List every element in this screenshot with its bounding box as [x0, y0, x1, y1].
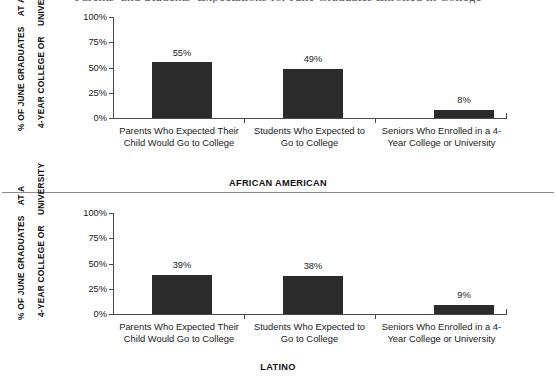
x-axis-end-tick [506, 309, 507, 314]
bar-students-expected [283, 276, 343, 314]
x-axis-end-tick [506, 113, 507, 118]
x-category-label-parents: Parents Who Expected Their Child Would G… [115, 321, 243, 344]
chart-panel-latino: % OF JUNE GRADUATES AT A 4-YEAR COLLEGE … [0, 198, 556, 378]
y-axis-line [113, 213, 114, 314]
y-tick-label-50: 50% [88, 259, 107, 269]
bar-seniors-enrolled [434, 110, 494, 118]
y-tick-label-25: 25% [88, 284, 107, 294]
x-axis-separator-1 [244, 118, 245, 123]
chart-panel-african-american: % OF JUNE GRADUATES AT A 4-YEAR COLLEGE … [0, 4, 556, 192]
bar-parents-expected [152, 275, 212, 314]
y-tick-label-75: 75% [88, 233, 107, 243]
y-axis-title-line-a: % OF JUNE GRADUATES AT A [16, 0, 26, 131]
x-category-label-parents: Parents Who Expected Their Child Would G… [115, 125, 243, 148]
bar-parents-expected [152, 62, 212, 118]
bar-value-label-students: 38% [283, 261, 343, 271]
y-axis-title-text-3: 4-YEAR COLLEGE OR [36, 36, 46, 128]
bar-value-label-parents: 39% [152, 260, 212, 270]
y-axis-title-line-b: 4-YEAR COLLEGE OR UNIVERSITY [36, 0, 46, 128]
y-axis-title-text-1: % OF JUNE GRADUATES [16, 215, 26, 320]
y-tick-label-0: 0% [94, 113, 107, 123]
y-axis-title-text-4: UNIVERSITY [36, 0, 46, 26]
figure-page: Parents’ and Students’ Expectations for … [0, 0, 556, 378]
y-axis-title-text-1: % OF JUNE GRADUATES [16, 26, 26, 131]
x-category-label-seniors: Seniors Who Enrolled in a 4-Year College… [379, 321, 504, 344]
bar-students-expected [283, 69, 343, 118]
chart-group-title-african-american: AFRICAN AMERICAN [0, 178, 556, 188]
x-axis-line [113, 118, 507, 119]
y-tick-label-25: 25% [88, 88, 107, 98]
y-tick-label-100: 100% [83, 208, 107, 218]
figure-title-cutoff: Parents’ and Students’ Expectations for … [0, 0, 556, 3]
x-axis-separator-1 [244, 314, 245, 319]
x-axis-separator-2 [375, 118, 376, 123]
y-axis-line [113, 17, 114, 118]
y-tick-label-100: 100% [83, 12, 107, 22]
y-axis-title-line-a: % OF JUNE GRADUATES AT A [16, 186, 26, 320]
chart-group-title-latino: LATINO [0, 362, 556, 372]
bar-seniors-enrolled [434, 305, 494, 314]
x-category-label-seniors: Seniors Who Enrolled in a 4-Year College… [379, 125, 504, 148]
y-axis-title-text-2: AT A [16, 0, 26, 16]
y-axis-title-text-2: AT A [16, 186, 26, 205]
bar-value-label-students: 49% [283, 54, 343, 64]
bar-value-label-seniors: 8% [434, 95, 494, 105]
x-category-label-students: Students Who Expected to Go to College [247, 125, 372, 148]
panel-divider [2, 192, 554, 193]
x-axis-line [113, 314, 507, 315]
y-axis-title-text-4: UNIVERSITY [36, 163, 46, 215]
x-category-label-students: Students Who Expected to Go to College [247, 321, 372, 344]
y-axis-title-text-3: 4-YEAR COLLEGE OR [36, 225, 46, 317]
y-tick-label-0: 0% [94, 309, 107, 319]
bar-value-label-parents: 55% [152, 48, 212, 58]
x-axis-separator-2 [375, 314, 376, 319]
y-tick-label-50: 50% [88, 63, 107, 73]
y-axis-title-line-b: 4-YEAR COLLEGE OR UNIVERSITY [36, 163, 46, 317]
bar-value-label-seniors: 9% [434, 290, 494, 300]
y-tick-label-75: 75% [88, 37, 107, 47]
